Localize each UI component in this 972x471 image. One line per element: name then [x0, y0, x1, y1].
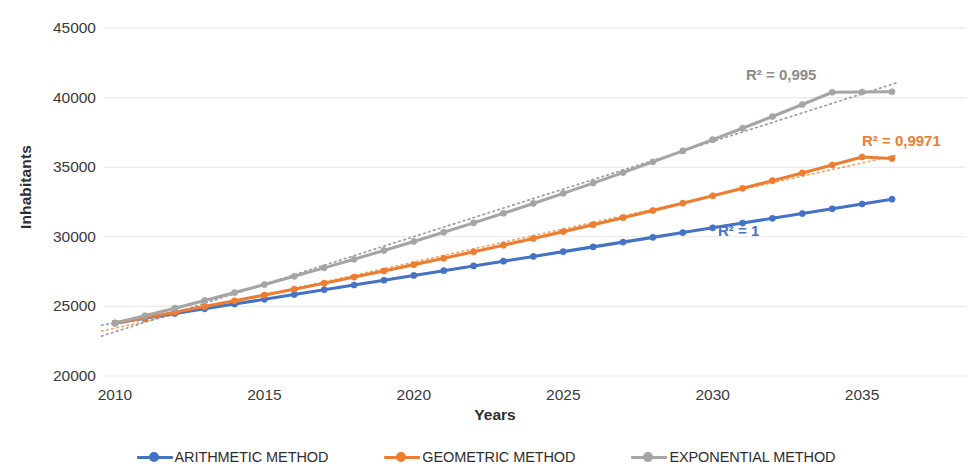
r2-annotation-exponential: R² = 0,995 [746, 66, 816, 83]
data-point [530, 200, 536, 206]
data-point [739, 125, 745, 131]
legend-label: EXPONENTIAL METHOD [669, 449, 835, 465]
y-tick-45000: 45000 [24, 19, 96, 36]
data-point [351, 282, 357, 288]
legend-label: ARITHMETIC METHOD [175, 449, 329, 465]
data-point [769, 215, 775, 221]
y-axis-title: Inhabitants [17, 117, 35, 257]
x-tick-2025: 2025 [523, 386, 603, 404]
data-point [620, 215, 626, 221]
data-point [471, 249, 477, 255]
series-geometric-method [112, 154, 895, 326]
data-point [680, 148, 686, 154]
r2-annotation-arithmetic: R² = 1 [718, 222, 759, 239]
data-point [530, 253, 536, 259]
data-point [411, 272, 417, 278]
data-point [411, 262, 417, 268]
data-point [650, 234, 656, 240]
data-point [351, 274, 357, 280]
data-point [889, 89, 895, 95]
data-point [500, 242, 506, 248]
data-point [441, 255, 447, 261]
data-point [321, 287, 327, 293]
data-point [471, 263, 477, 269]
data-point [381, 277, 387, 283]
y-tick-40000: 40000 [24, 89, 96, 106]
data-point [231, 298, 237, 304]
x-axis-tick-labels: 201020152020202520302035 [0, 386, 972, 408]
data-point [381, 247, 387, 253]
data-point [859, 154, 865, 160]
data-point [829, 89, 835, 95]
x-tick-2035: 2035 [822, 386, 902, 404]
y-tick-20000: 20000 [24, 367, 96, 384]
data-point [829, 206, 835, 212]
data-point [321, 280, 327, 286]
data-point [500, 258, 506, 264]
data-point [799, 101, 805, 107]
chart-legend: ARITHMETIC METHODGEOMETRIC METHODEXPONEN… [0, 444, 972, 470]
data-point [859, 201, 865, 207]
exponential-trendline [102, 83, 897, 336]
data-point [321, 265, 327, 271]
legend-item-arithmetic-method[interactable]: ARITHMETIC METHOD [137, 449, 329, 465]
data-point [859, 89, 865, 95]
r2-annotation-geometric: R² = 0,9971 [862, 132, 941, 149]
data-point [650, 207, 656, 213]
data-point [411, 238, 417, 244]
data-point [202, 297, 208, 303]
data-point [202, 303, 208, 309]
data-point [769, 113, 775, 119]
data-point [620, 239, 626, 245]
data-point [680, 200, 686, 206]
data-point [291, 273, 297, 279]
data-point [650, 159, 656, 165]
data-point [441, 268, 447, 274]
data-point [590, 222, 596, 228]
data-point [560, 229, 566, 235]
data-point [172, 305, 178, 311]
data-point [231, 289, 237, 295]
data-point [560, 249, 566, 255]
x-tick-2010: 2010 [75, 386, 155, 404]
legend-dot [396, 452, 406, 462]
legend-marker-icon [384, 450, 420, 464]
data-point [739, 185, 745, 191]
data-point [381, 268, 387, 274]
data-point [829, 162, 835, 168]
data-point [471, 220, 477, 226]
legend-label: GEOMETRIC METHOD [422, 449, 575, 465]
data-point [769, 178, 775, 184]
legend-dot [149, 452, 159, 462]
data-point [112, 320, 118, 326]
legend-marker-icon [631, 450, 667, 464]
legend-marker-icon [137, 450, 173, 464]
data-point [710, 137, 716, 143]
data-point [680, 229, 686, 235]
x-axis-title: Years [440, 406, 550, 424]
data-point [710, 193, 716, 199]
data-point [441, 229, 447, 235]
data-point [142, 313, 148, 319]
data-point [799, 210, 805, 216]
data-point [261, 281, 267, 287]
x-tick-2030: 2030 [673, 386, 753, 404]
data-point [291, 286, 297, 292]
data-point [889, 196, 895, 202]
legend-item-exponential-method[interactable]: EXPONENTIAL METHOD [631, 449, 835, 465]
data-point [620, 170, 626, 176]
x-tick-2020: 2020 [374, 386, 454, 404]
y-tick-25000: 25000 [24, 297, 96, 314]
data-point [351, 256, 357, 262]
line-chart: 450004000035000300002500020000 201020152… [0, 0, 972, 471]
data-point [590, 244, 596, 250]
data-point [261, 292, 267, 298]
data-point [889, 155, 895, 161]
data-point [500, 210, 506, 216]
data-point [799, 170, 805, 176]
legend-item-geometric-method[interactable]: GEOMETRIC METHOD [384, 449, 575, 465]
data-point [560, 190, 566, 196]
data-point [590, 180, 596, 186]
legend-dot [643, 452, 653, 462]
x-tick-2015: 2015 [224, 386, 304, 404]
